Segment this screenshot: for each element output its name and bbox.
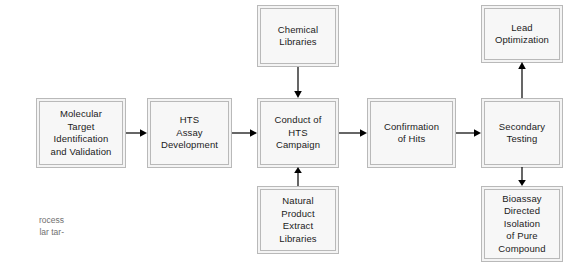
node-secondary-testing-label: Secondary Testing (496, 121, 548, 146)
node-natural-product-extract-libraries-label: Natural Product Extract Libraries (276, 195, 319, 245)
node-bioassay-directed-isolation-body: Bioassay Directed Isolation of Pure Comp… (484, 189, 560, 259)
arrow-confirmation-to-secondary-testing (456, 126, 482, 140)
arrow-secondary-testing-to-bioassay (515, 167, 529, 187)
node-chemical-libraries-body: Chemical Libraries (260, 8, 336, 64)
arrow-molecular-target-to-hts-assay (126, 126, 148, 140)
node-conduct-hts-campaign-label: Conduct of HTS Campaign (272, 114, 325, 152)
node-confirmation-of-hits-label: Confirmation of Hits (381, 121, 442, 146)
node-molecular-target-body: Molecular Target Identification and Vali… (39, 101, 123, 165)
arrow-secondary-testing-to-lead-optimization (515, 62, 529, 99)
arrow-chemical-libraries-to-conduct-hts (291, 67, 305, 99)
node-natural-product-extract-libraries: Natural Product Extract Libraries (257, 186, 339, 254)
node-hts-assay-development-body: HTS Assay Development (150, 101, 229, 165)
node-conduct-hts-campaign: Conduct of HTS Campaign (257, 98, 339, 168)
node-hts-assay-development: HTS Assay Development (147, 98, 232, 168)
node-chemical-libraries-label: Chemical Libraries (275, 24, 321, 49)
node-molecular-target: Molecular Target Identification and Vali… (36, 98, 126, 168)
node-lead-optimization-body: Lead Optimization (484, 8, 560, 60)
diagram-canvas: Molecular Target Identification and Vali… (0, 0, 572, 271)
node-bioassay-directed-isolation-label: Bioassay Directed Isolation of Pure Comp… (495, 193, 548, 256)
node-hts-assay-development-label: HTS Assay Development (158, 114, 221, 152)
arrow-natural-product-to-conduct-hts (291, 167, 305, 187)
node-lead-optimization-label: Lead Optimization (492, 22, 552, 47)
node-lead-optimization: Lead Optimization (481, 5, 563, 63)
node-molecular-target-label: Molecular Target Identification and Vali… (48, 108, 115, 158)
node-confirmation-of-hits: Confirmation of Hits (367, 98, 456, 168)
node-chemical-libraries: Chemical Libraries (257, 5, 339, 67)
figure-caption-fragment: rocess lar tar- (0, 214, 64, 238)
node-secondary-testing-body: Secondary Testing (484, 101, 560, 165)
node-bioassay-directed-isolation: Bioassay Directed Isolation of Pure Comp… (481, 186, 563, 262)
node-conduct-hts-campaign-body: Conduct of HTS Campaign (260, 101, 336, 165)
arrow-hts-assay-to-conduct-hts (232, 126, 258, 140)
node-natural-product-extract-libraries-body: Natural Product Extract Libraries (260, 189, 336, 251)
node-secondary-testing: Secondary Testing (481, 98, 563, 168)
node-confirmation-of-hits-body: Confirmation of Hits (370, 101, 453, 165)
arrow-conduct-hts-to-confirmation (339, 126, 368, 140)
